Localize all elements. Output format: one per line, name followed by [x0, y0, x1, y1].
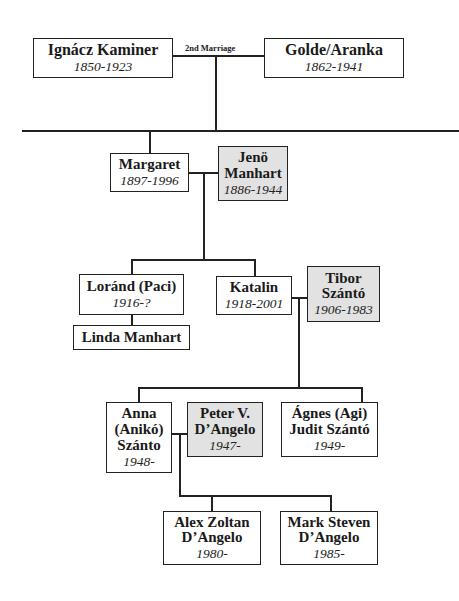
person-name: Tibor — [325, 271, 361, 287]
person-dates: 1862-1941 — [305, 60, 364, 74]
descent-line — [203, 172, 205, 260]
person-name: D’Angelo — [299, 530, 360, 546]
person-anna-aniko-szanto: Anna (Anikó) Szánto 1948- — [106, 402, 172, 473]
person-name: D’Angelo — [195, 422, 256, 438]
descent-line — [361, 387, 363, 402]
descent-line — [330, 495, 332, 511]
person-name: Manhart — [224, 166, 282, 182]
person-dates: 1980- — [196, 547, 228, 561]
descent-line — [149, 130, 151, 153]
person-name: Szántó — [322, 286, 365, 302]
descent-line — [211, 495, 213, 511]
person-name: Anna — [121, 406, 156, 422]
person-name: Alex Zoltan — [174, 515, 249, 531]
person-mark-dangelo: Mark Steven D’Angelo 1985- — [280, 511, 378, 565]
descent-line — [254, 259, 256, 276]
person-dates: 1947- — [209, 439, 241, 453]
descent-line — [215, 55, 217, 131]
person-name: Szánto — [117, 438, 160, 454]
descent-line — [179, 433, 181, 496]
marriage-line — [292, 297, 307, 299]
person-tibor-szanto: Tibor Szántó 1906-1983 — [307, 266, 380, 322]
person-name: Margaret — [119, 157, 180, 173]
person-linda-manhart: Linda Manhart — [73, 325, 190, 350]
person-alex-dangelo: Alex Zoltan D’Angelo 1980- — [163, 511, 261, 565]
person-name: Ignácz Kaminer — [48, 42, 159, 59]
person-dates: 1906-1983 — [314, 303, 373, 317]
person-name: Loránd (Paci) — [87, 279, 177, 295]
generation-line — [22, 130, 459, 132]
descent-line — [138, 387, 140, 402]
person-dates: 1897-1996 — [120, 174, 179, 188]
person-name: (Anikó) — [114, 422, 163, 438]
person-margaret: Margaret 1897-1996 — [110, 153, 189, 192]
person-name: D’Angelo — [182, 530, 243, 546]
person-name: Jenö — [238, 150, 268, 166]
person-name: Judit Szántó — [289, 422, 369, 438]
person-agnes-szanto: Ágnes (Agi) Judit Szántó 1949- — [281, 402, 378, 457]
person-name: Mark Steven — [288, 515, 371, 531]
person-dates: 1886-1944 — [224, 183, 283, 197]
sibling-line — [131, 259, 255, 261]
person-dates: 1916-? — [112, 296, 150, 310]
person-name: Peter V. — [200, 406, 250, 422]
marriage-label: 2nd Marriage — [185, 43, 235, 53]
sibling-line — [179, 495, 331, 497]
person-name: Golde/Aranka — [285, 42, 383, 59]
person-name: Katalin — [230, 280, 278, 296]
person-name: Ágnes (Agi) — [292, 406, 367, 422]
person-dates: 1918-2001 — [225, 297, 284, 311]
person-dates: 1850-1923 — [74, 60, 133, 74]
sibling-line — [138, 387, 362, 389]
person-lorand: Loránd (Paci) 1916-? — [79, 274, 184, 315]
person-dates: 1985- — [313, 547, 345, 561]
descent-line — [131, 259, 133, 274]
marriage-line — [173, 55, 264, 57]
person-golde-aranka: Golde/Aranka 1862-1941 — [264, 38, 404, 78]
descent-line — [131, 315, 133, 325]
person-name: Linda Manhart — [82, 330, 182, 346]
person-ignacz-kaminer: Ignácz Kaminer 1850-1923 — [33, 38, 173, 78]
person-katalin: Katalin 1918-2001 — [216, 276, 292, 315]
person-dates: 1949- — [314, 439, 346, 453]
person-dates: 1948- — [123, 455, 155, 469]
person-jeno-manhart: Jenö Manhart 1886-1944 — [218, 146, 288, 201]
person-peter-dangelo: Peter V. D’Angelo 1947- — [187, 402, 263, 457]
descent-line — [298, 297, 300, 388]
